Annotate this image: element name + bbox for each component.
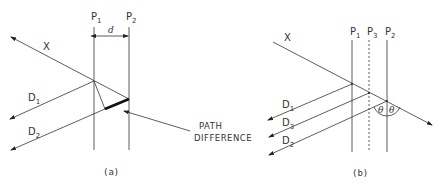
panel-b: P1 P3 P2 X D1 D3 D2 θ θ (b) xyxy=(268,26,432,178)
theta-label-right: θ xyxy=(389,105,395,115)
theta-label-left: θ xyxy=(378,105,384,115)
diffracted-ray-d2-label: D2 xyxy=(282,135,294,149)
plane-p3-label: P3 xyxy=(367,26,378,40)
diffracted-ray-d2 xyxy=(11,109,105,150)
diffracted-ray-d1 xyxy=(268,84,352,120)
incident-ray-x xyxy=(11,37,129,99)
panel-b-caption: (b) xyxy=(352,168,368,178)
panel-a-caption: (a) xyxy=(103,167,119,177)
intersection-dot xyxy=(351,83,353,85)
diffracted-ray-d1 xyxy=(10,81,94,119)
intersection-dot xyxy=(386,100,388,102)
plane-p2-label: P2 xyxy=(385,26,396,40)
plane-p2-label: P2 xyxy=(126,11,137,25)
path-difference-label-line2: DIFFERENCE xyxy=(194,133,252,143)
panel-a: P1 P2 d X D1 D2 PATH DIFFERENCE (a) xyxy=(10,11,252,177)
spacing-d-label: d xyxy=(108,25,114,35)
diffracted-ray-d2-label: D2 xyxy=(28,126,40,140)
path-difference-label-line1: PATH xyxy=(199,121,222,131)
incident-ray-label: X xyxy=(284,32,291,43)
diffracted-ray-d1-label: D1 xyxy=(28,92,40,106)
bragg-diffraction-diagram: P1 P2 d X D1 D2 PATH DIFFERENCE (a) P1 P… xyxy=(0,0,440,184)
plane-p1-label: P1 xyxy=(350,26,361,40)
plane-p1-label: P1 xyxy=(91,11,102,25)
intersection-dot xyxy=(368,92,370,94)
path-difference-segment xyxy=(105,99,129,109)
diffracted-ray-d1-label: D1 xyxy=(282,99,294,113)
path-difference-pointer xyxy=(124,111,190,131)
incident-ray-label: X xyxy=(43,41,50,52)
